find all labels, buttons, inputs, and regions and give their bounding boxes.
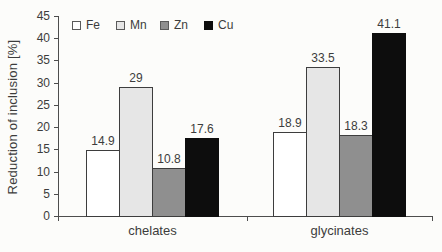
y-axis-tick xyxy=(54,16,58,17)
y-axis-tick xyxy=(54,105,58,106)
y-tick-label: 0 xyxy=(30,209,50,223)
legend-label-cu: Cu xyxy=(218,18,233,32)
legend-item-mn: Mn xyxy=(116,19,147,32)
y-tick-label: 40 xyxy=(30,31,50,45)
y-axis-title: Reduction of inclusion [%] xyxy=(5,11,21,223)
legend-label-fe: Fe xyxy=(86,18,100,32)
bar-chart-figure: Reduction of inclusion [%] 0510152025303… xyxy=(0,0,442,252)
x-axis-tick xyxy=(432,217,433,221)
y-axis-tick xyxy=(54,38,58,39)
bar-cu-glycinates xyxy=(372,33,406,217)
category-label-chelates: chelates xyxy=(98,223,208,238)
y-tick-label: 20 xyxy=(30,120,50,134)
bar-zn-glycinates xyxy=(339,135,373,217)
legend-swatch-cu-icon xyxy=(204,21,213,30)
legend-swatch-zn-icon xyxy=(160,21,169,30)
y-tick-label: 15 xyxy=(30,142,50,156)
value-label-cu-chelates: 17.6 xyxy=(180,122,224,136)
legend-label-mn: Mn xyxy=(130,18,147,32)
y-tick-label: 25 xyxy=(30,98,50,112)
value-label-mn-glycinates: 33.5 xyxy=(301,51,345,65)
legend-item-zn: Zn xyxy=(160,19,188,32)
bar-fe-glycinates xyxy=(273,132,307,217)
y-axis-tick xyxy=(54,172,58,173)
y-tick-label: 30 xyxy=(30,76,50,90)
y-axis-tick xyxy=(54,60,58,61)
value-label-mn-chelates: 29 xyxy=(114,71,158,85)
y-axis-tick xyxy=(54,83,58,84)
y-tick-label: 45 xyxy=(30,9,50,23)
bar-mn-glycinates xyxy=(306,67,340,217)
y-axis-tick xyxy=(54,194,58,195)
bar-cu-chelates xyxy=(185,138,219,217)
y-axis-tick xyxy=(54,127,58,128)
legend-item-fe: Fe xyxy=(72,19,100,32)
category-label-glycinates: glycinates xyxy=(285,223,395,238)
legend-label-zn: Zn xyxy=(174,18,188,32)
y-tick-label: 10 xyxy=(30,165,50,179)
value-label-cu-glycinates: 41.1 xyxy=(367,17,411,31)
y-axis-tick xyxy=(54,216,58,217)
legend-item-cu: Cu xyxy=(204,19,233,32)
bar-fe-chelates xyxy=(86,150,120,217)
y-axis-tick xyxy=(54,149,58,150)
legend-swatch-mn-icon xyxy=(116,21,125,30)
bar-zn-chelates xyxy=(152,168,186,217)
y-axis-line xyxy=(58,16,59,221)
y-tick-label: 35 xyxy=(30,53,50,67)
x-axis-tick xyxy=(247,217,248,221)
y-tick-label: 5 xyxy=(30,187,50,201)
legend-swatch-fe-icon xyxy=(72,21,81,30)
